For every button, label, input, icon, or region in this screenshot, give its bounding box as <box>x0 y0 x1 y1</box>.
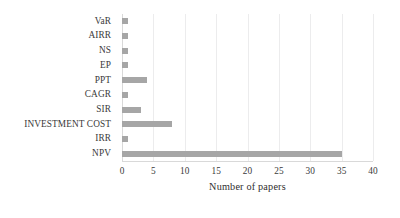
bar-ep[interactable] <box>122 62 128 68</box>
bar-npv[interactable] <box>122 151 342 157</box>
bar-row <box>122 146 373 161</box>
bar-cagr[interactable] <box>122 92 128 98</box>
y-axis-label-sir: SIR <box>0 102 116 117</box>
bar-sir[interactable] <box>122 107 141 113</box>
gridline-40 <box>373 14 374 161</box>
y-axis-label-ns: NS <box>0 43 116 58</box>
bar-investment-cost[interactable] <box>122 121 172 127</box>
bar-series <box>122 14 373 161</box>
bar-row <box>122 102 373 117</box>
bar-ns[interactable] <box>122 48 128 54</box>
x-tick-label-35: 35 <box>337 164 346 178</box>
bar-row <box>122 14 373 29</box>
y-axis-label-irr: IRR <box>0 132 116 147</box>
bar-row <box>122 43 373 58</box>
bar-row <box>122 29 373 44</box>
bar-row <box>122 58 373 73</box>
x-tick-label-10: 10 <box>180 164 189 178</box>
x-tick-label-15: 15 <box>211 164 220 178</box>
y-axis-label-ep: EP <box>0 58 116 73</box>
y-axis-label-cagr: CAGR <box>0 88 116 103</box>
bar-row <box>122 73 373 88</box>
x-tick-label-25: 25 <box>274 164 283 178</box>
x-tick-label-5: 5 <box>151 164 156 178</box>
x-tick-label-40: 40 <box>368 164 377 178</box>
x-axis-line <box>122 161 373 162</box>
x-tick-label-0: 0 <box>120 164 125 178</box>
plot-area <box>122 14 373 161</box>
y-axis-category-labels: VaR AIRR NS EP PPT CAGR SIR INVESTMENT C… <box>0 14 116 161</box>
bar-chart: VaR AIRR NS EP PPT CAGR SIR INVESTMENT C… <box>0 0 400 218</box>
plot-wrapper: VaR AIRR NS EP PPT CAGR SIR INVESTMENT C… <box>0 0 400 218</box>
x-axis-tick-labels: 0510152025303540 <box>122 164 373 178</box>
y-axis-label-ppt: PPT <box>0 73 116 88</box>
bar-irr[interactable] <box>122 136 128 142</box>
bar-airr[interactable] <box>122 33 128 39</box>
y-axis-label-airr: AIRR <box>0 29 116 44</box>
x-tick-label-20: 20 <box>243 164 252 178</box>
bar-ppt[interactable] <box>122 77 147 83</box>
y-axis-label-var: VaR <box>0 14 116 29</box>
bar-row <box>122 88 373 103</box>
x-tick-label-30: 30 <box>306 164 315 178</box>
bar-row <box>122 132 373 147</box>
bar-var[interactable] <box>122 18 128 24</box>
y-axis-label-npv: NPV <box>0 146 116 161</box>
x-axis-title: Number of papers <box>122 181 373 192</box>
bar-row <box>122 117 373 132</box>
y-axis-label-investment-cost: INVESTMENT COST <box>0 117 116 132</box>
